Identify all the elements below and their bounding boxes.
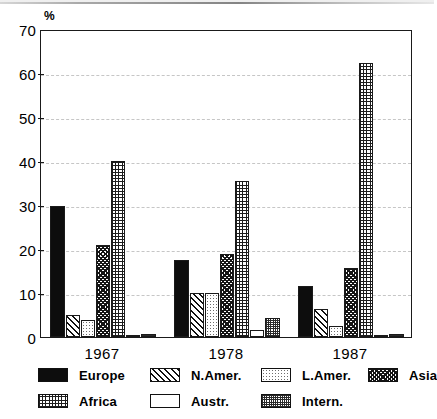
bar-europe-1978 xyxy=(174,260,189,337)
y-axis-tick-label: 10 xyxy=(2,286,36,303)
legend-label: N.Amer. xyxy=(191,368,242,383)
legend-swatch-icon xyxy=(261,368,291,382)
y-axis-tick-label: 50 xyxy=(2,110,36,127)
y-axis-tick-label: 30 xyxy=(2,198,36,215)
bar-asia-1967 xyxy=(96,245,111,337)
bar-lamer-1987 xyxy=(329,326,344,337)
legend-item-europe[interactable]: Europe xyxy=(38,364,125,386)
legend-item-intern[interactable]: Intern. xyxy=(261,390,343,412)
legend-label: Europe xyxy=(79,368,125,383)
bar-namer-1987 xyxy=(314,309,329,337)
y-axis-tick-mark xyxy=(38,206,44,207)
gridline xyxy=(41,75,411,76)
y-axis-tick-label: 0 xyxy=(2,330,36,347)
bar-africa-1967 xyxy=(111,161,126,337)
legend-item-austr[interactable]: Austr. xyxy=(150,390,229,412)
legend-swatch-icon xyxy=(38,394,68,408)
y-axis-tick-mark xyxy=(38,74,44,75)
bar-namer-1967 xyxy=(66,315,81,337)
gridline xyxy=(41,119,411,120)
legend-swatch-icon xyxy=(368,368,398,382)
bar-asia-1978 xyxy=(220,254,235,337)
bar-lamer-1978 xyxy=(205,293,220,337)
legend-label: Austr. xyxy=(191,394,229,409)
legend-label: Asia xyxy=(409,368,437,383)
legend-item-namer[interactable]: N.Amer. xyxy=(150,364,242,386)
legend-label: Africa xyxy=(79,394,117,409)
y-axis-tick-label: 70 xyxy=(2,22,36,39)
bar-intern-1967 xyxy=(141,334,156,337)
x-axis-tick-label: 1967 xyxy=(85,345,120,362)
bar-austr-1978 xyxy=(250,330,265,337)
bar-europe-1987 xyxy=(298,286,313,337)
bar-intern-1978 xyxy=(265,318,280,337)
gridline xyxy=(41,163,411,164)
bar-europe-1967 xyxy=(50,206,65,337)
chart-legend: EuropeN.Amer.L.Amer.AsiaAfricaAustr.Inte… xyxy=(38,364,428,414)
legend-swatch-icon xyxy=(150,394,180,408)
gridline xyxy=(41,207,411,208)
x-axis-tick-label: 1987 xyxy=(333,345,368,362)
legend-swatch-icon xyxy=(261,394,291,408)
legend-item-asia[interactable]: Asia xyxy=(368,364,437,386)
y-axis-tick-mark xyxy=(38,118,44,119)
y-axis-tick-mark xyxy=(38,162,44,163)
bar-africa-1987 xyxy=(359,63,374,337)
y-axis-tick-label: 20 xyxy=(2,242,36,259)
legend-label: L.Amer. xyxy=(302,368,351,383)
plot-area xyxy=(40,30,412,338)
bar-namer-1978 xyxy=(190,293,205,337)
x-axis-tick-label: 1978 xyxy=(209,345,244,362)
y-axis-tick-mark xyxy=(38,294,44,295)
bar-lamer-1967 xyxy=(81,320,96,337)
y-axis-unit-label: % xyxy=(44,9,55,23)
bar-intern-1987 xyxy=(389,334,404,337)
bar-asia-1987 xyxy=(344,268,359,337)
legend-item-africa[interactable]: Africa xyxy=(38,390,117,412)
legend-label: Intern. xyxy=(302,394,343,409)
legend-swatch-icon xyxy=(150,368,180,382)
bar-austr-1987 xyxy=(374,335,389,337)
y-axis-tick-labels: 010203040506070 xyxy=(0,30,36,338)
y-axis-tick-label: 60 xyxy=(2,66,36,83)
bar-austr-1967 xyxy=(126,335,141,337)
bar-africa-1978 xyxy=(235,181,250,337)
legend-item-lamer[interactable]: L.Amer. xyxy=(261,364,351,386)
y-axis-tick-label: 40 xyxy=(2,154,36,171)
legend-swatch-icon xyxy=(38,368,68,382)
y-axis-tick-mark xyxy=(38,250,44,251)
